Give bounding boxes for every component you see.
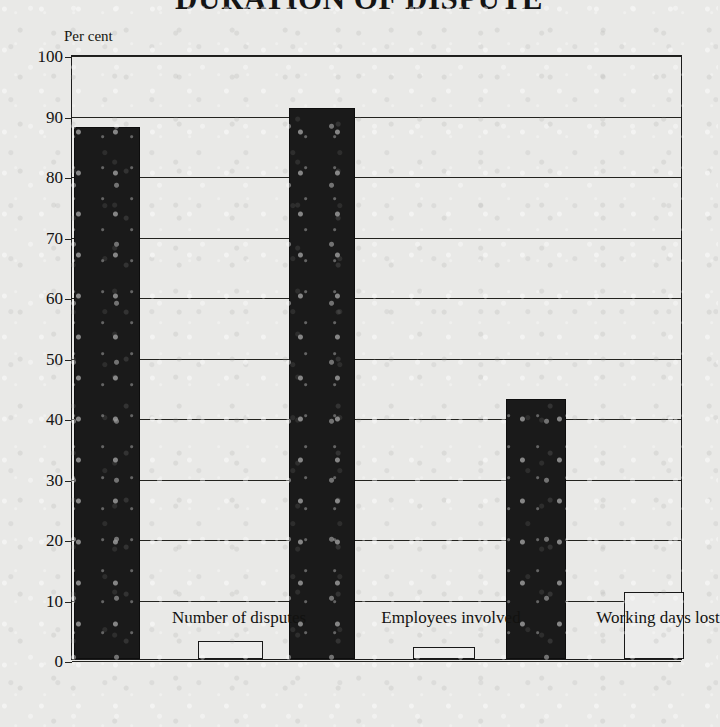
bar[interactable] — [74, 127, 140, 659]
bar-group — [74, 56, 263, 659]
bar-group — [506, 56, 684, 659]
y-tick-label: 0 — [55, 652, 64, 672]
bar-group — [289, 56, 475, 659]
y-tick-mark — [65, 118, 72, 119]
y-tick-label: 70 — [46, 229, 63, 249]
category-label: Employees involved — [381, 608, 520, 628]
y-tick-label: 10 — [46, 592, 63, 612]
y-tick-mark — [65, 602, 72, 603]
y-tick-label: 60 — [46, 289, 63, 309]
y-tick-mark — [65, 360, 72, 361]
y-tick-mark — [65, 299, 72, 300]
bar[interactable] — [198, 641, 263, 659]
category-label: Working days lost — [596, 608, 719, 628]
y-tick-mark — [65, 178, 72, 179]
y-tick-mark — [65, 541, 72, 542]
y-tick-label: 30 — [46, 471, 63, 491]
y-tick-label: 80 — [46, 168, 63, 188]
y-tick-mark — [65, 239, 72, 240]
y-tick-mark — [65, 481, 72, 482]
bar[interactable] — [289, 108, 355, 659]
y-tick-label: 50 — [46, 350, 63, 370]
y-tick-label: 40 — [46, 410, 63, 430]
gridline: 0 — [72, 661, 681, 662]
y-axis-unit-label: Per cent — [64, 28, 113, 45]
chart-title: DURATION OF DISPUTE — [0, 0, 718, 17]
y-tick-mark — [65, 57, 72, 58]
y-tick-label: 100 — [38, 47, 64, 67]
category-label: Number of disputes — [172, 608, 306, 628]
y-tick-label: 90 — [46, 108, 63, 128]
y-tick-mark — [65, 420, 72, 421]
y-tick-label: 20 — [46, 531, 63, 551]
y-tick-mark — [65, 662, 72, 663]
bar[interactable] — [413, 647, 475, 659]
plot-area: 0102030405060708090100 — [71, 55, 682, 660]
